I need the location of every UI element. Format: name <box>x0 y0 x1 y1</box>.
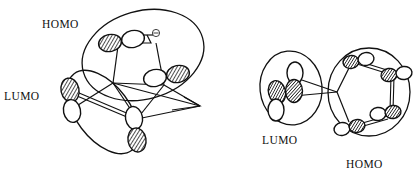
orbital-interaction-figure: HOMO LUMO <box>0 0 420 174</box>
right-lumo-label: LUMO <box>262 134 297 146</box>
left-homo-label: HOMO <box>42 18 79 30</box>
right-homo-label: HOMO <box>346 158 383 170</box>
orbital-lobe-empty <box>268 99 284 121</box>
right-lumo-orbital-1 <box>286 62 304 103</box>
left-lumo-label: LUMO <box>4 90 39 102</box>
orbital-lobe-filled <box>286 80 303 103</box>
